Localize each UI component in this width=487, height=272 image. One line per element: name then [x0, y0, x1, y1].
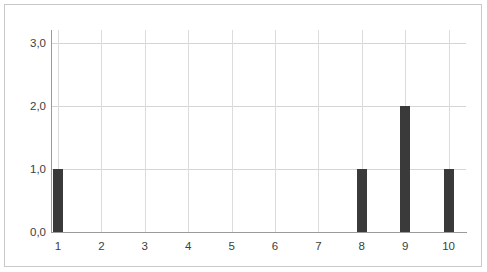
- x-tick-label: 5: [212, 240, 252, 252]
- x-tick-label: 10: [429, 240, 469, 252]
- bar: [400, 106, 410, 232]
- x-tick-label: 3: [125, 240, 165, 252]
- x-tick-label: 1: [38, 240, 78, 252]
- gridline-vertical: [145, 30, 146, 232]
- y-tick-label: 3,0: [8, 37, 46, 49]
- gridline-vertical: [101, 30, 102, 232]
- y-tick-label: 1,0: [8, 163, 46, 175]
- x-tick-label: 8: [342, 240, 382, 252]
- y-tick-label: 0,0: [8, 226, 46, 238]
- bar: [444, 169, 454, 232]
- gridline-vertical: [188, 30, 189, 232]
- bar: [53, 169, 63, 232]
- x-tick-label: 7: [298, 240, 338, 252]
- gridline-vertical: [318, 30, 319, 232]
- plot-area: [51, 30, 466, 232]
- x-tick-label: 9: [385, 240, 425, 252]
- bar-chart: 0,01,02,03,0 12345678910: [0, 0, 487, 272]
- bar: [357, 169, 367, 232]
- x-tick-label: 2: [81, 240, 121, 252]
- x-tick-label: 6: [255, 240, 295, 252]
- gridline-vertical: [275, 30, 276, 232]
- y-axis-line: [51, 30, 52, 233]
- gridline-vertical: [232, 30, 233, 232]
- y-tick-label: 2,0: [8, 100, 46, 112]
- x-axis-line: [51, 232, 467, 233]
- gridline-horizontal: [51, 43, 466, 44]
- x-tick-label: 4: [168, 240, 208, 252]
